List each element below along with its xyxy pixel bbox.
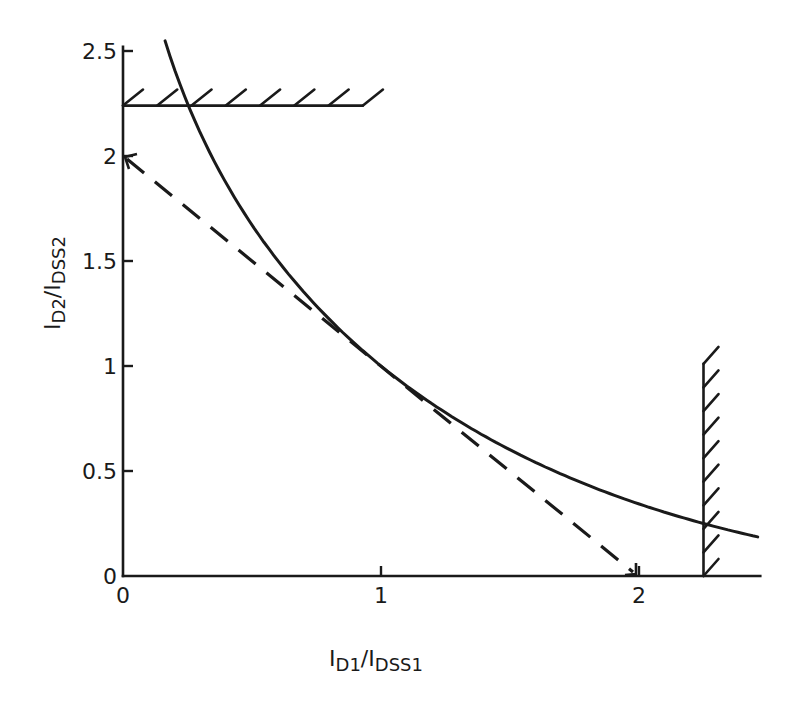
hatch-mark [704, 394, 719, 411]
hatch-mark [226, 90, 246, 106]
y-tick-label: 1 [103, 354, 117, 379]
hatch-mark [157, 90, 177, 106]
hatch-mark [704, 347, 719, 364]
y-tick-label: 2.5 [82, 39, 117, 64]
y-tick-label: 0.5 [82, 459, 117, 484]
hatch-mark [704, 370, 719, 387]
x-axis-title: ID1/IDSS1 [329, 646, 423, 675]
chart: 01200.511.522.5 ID1/IDSS1 ID2/IDSS2 [0, 0, 793, 714]
hatched-boundaries [123, 90, 719, 576]
hatch-mark [260, 90, 280, 106]
y-tick-label: 1.5 [82, 249, 117, 274]
x-tick-label: 1 [374, 583, 388, 608]
y-axis-title: ID2/IDSS2 [40, 236, 69, 330]
hatch-mark [192, 90, 212, 106]
hatch-mark [294, 90, 314, 106]
hatch-mark [704, 465, 719, 482]
hatch-mark [704, 441, 719, 458]
hatch-mark [704, 535, 719, 552]
hatch-mark [704, 418, 719, 435]
tick-labels: 01200.511.522.5 [82, 39, 646, 608]
hatch-mark [363, 90, 383, 106]
x-tick-label: 2 [632, 583, 646, 608]
hatch-mark [123, 90, 143, 106]
x-tick-label: 0 [116, 583, 130, 608]
y-tick-label: 0 [103, 564, 117, 589]
hatch-mark [329, 90, 349, 106]
hatch-mark [704, 488, 719, 505]
y-tick-label: 2 [103, 144, 117, 169]
hatch-mark [704, 559, 719, 576]
solid-curve [165, 41, 758, 537]
axes [123, 47, 760, 576]
